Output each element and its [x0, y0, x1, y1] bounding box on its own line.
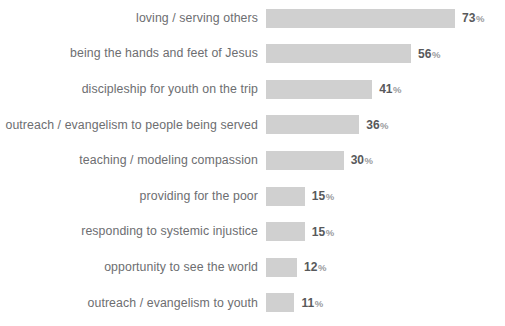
- bar-track: 56%: [266, 41, 505, 67]
- bar-fill: [266, 115, 359, 134]
- bar-value-suffix: %: [318, 262, 326, 273]
- bar-value-number: 73: [462, 11, 475, 25]
- bar-track: 41%: [266, 76, 505, 102]
- bar-value-label: 15%: [312, 226, 334, 238]
- bar-fill: [266, 151, 344, 170]
- bar-track: 11%: [266, 290, 505, 316]
- bar-category-label: discipleship for youth on the trip: [0, 83, 266, 95]
- bar-row: responding to systemic injustice15%: [0, 219, 505, 245]
- bar-row: outreach / evangelism to people being se…: [0, 112, 505, 138]
- bar-value-number: 11: [301, 296, 314, 310]
- bar-value-number: 15: [312, 225, 325, 239]
- bar-value-number: 15: [312, 189, 325, 203]
- bar-value-label: 30%: [351, 154, 373, 166]
- bar-row: discipleship for youth on the trip41%: [0, 76, 505, 102]
- bar-category-label: outreach / evangelism to people being se…: [0, 119, 266, 131]
- bar-row: providing for the poor15%: [0, 183, 505, 209]
- bar-row: being the hands and feet of Jesus56%: [0, 41, 505, 67]
- bar-fill: [266, 9, 455, 28]
- bar-value-label: 12%: [304, 261, 326, 273]
- bar-category-label: opportunity to see the world: [0, 261, 266, 273]
- bar-fill: [266, 187, 305, 206]
- bar-category-label: teaching / modeling compassion: [0, 154, 266, 166]
- bar-row: teaching / modeling compassion30%: [0, 147, 505, 173]
- bar-value-suffix: %: [315, 298, 323, 309]
- bar-value-number: 36: [366, 118, 379, 132]
- bar-value-number: 12: [304, 260, 317, 274]
- bar-track: 73%: [266, 5, 505, 31]
- bar-value-label: 41%: [379, 83, 401, 95]
- bar-rows-container: loving / serving others73%being the hand…: [0, 0, 505, 326]
- bar-row: outreach / evangelism to youth11%: [0, 290, 505, 316]
- bar-track: 15%: [266, 183, 505, 209]
- bar-track: 30%: [266, 147, 505, 173]
- bar-value-suffix: %: [365, 155, 373, 166]
- bar-value-number: 56: [418, 47, 431, 61]
- bar-fill: [266, 258, 297, 277]
- bar-value-suffix: %: [476, 13, 484, 24]
- bar-value-label: 56%: [418, 48, 440, 60]
- bar-value-label: 11%: [301, 297, 323, 309]
- bar-category-label: loving / serving others: [0, 12, 266, 24]
- bar-fill: [266, 80, 372, 99]
- bar-category-label: responding to systemic injustice: [0, 225, 266, 237]
- bar-value-suffix: %: [380, 120, 388, 131]
- bar-track: 15%: [266, 219, 505, 245]
- bar-category-label: outreach / evangelism to youth: [0, 297, 266, 309]
- bar-value-suffix: %: [432, 49, 440, 60]
- bar-value-number: 41: [379, 82, 392, 96]
- bar-track: 36%: [266, 112, 505, 138]
- bar-value-label: 73%: [462, 12, 484, 24]
- bar-category-label: being the hands and feet of Jesus: [0, 47, 266, 59]
- bar-value-suffix: %: [393, 84, 401, 95]
- horizontal-bar-chart: loving / serving others73%being the hand…: [0, 0, 505, 326]
- bar-category-label: providing for the poor: [0, 190, 266, 202]
- bar-row: loving / serving others73%: [0, 5, 505, 31]
- bar-value-suffix: %: [326, 191, 334, 202]
- bar-value-number: 30: [351, 153, 364, 167]
- bar-value-suffix: %: [326, 227, 334, 238]
- bar-track: 12%: [266, 254, 505, 280]
- bar-fill: [266, 222, 305, 241]
- bar-fill: [266, 44, 411, 63]
- bar-fill: [266, 293, 294, 312]
- bar-value-label: 36%: [366, 119, 388, 131]
- bar-value-label: 15%: [312, 190, 334, 202]
- bar-row: opportunity to see the world12%: [0, 254, 505, 280]
